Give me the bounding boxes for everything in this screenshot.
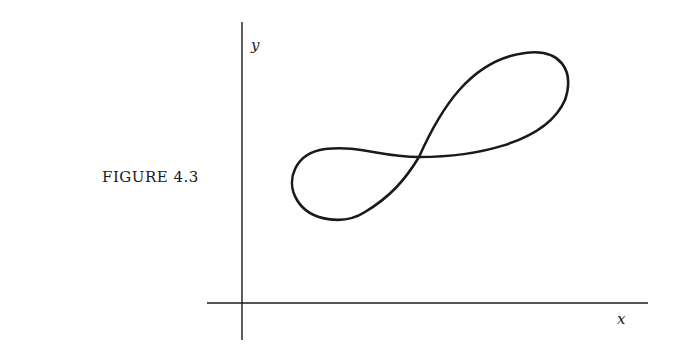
x-axis-label: x: [617, 310, 625, 328]
figure-diagram: [0, 0, 683, 352]
y-axis-label: y: [251, 36, 259, 54]
figure-eight-curve: [292, 52, 568, 219]
